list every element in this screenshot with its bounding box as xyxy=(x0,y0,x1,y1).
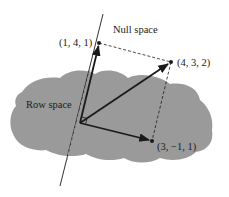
point-sum xyxy=(169,60,173,64)
point-row xyxy=(150,139,154,143)
label-point-row: (3, −1, 1) xyxy=(157,141,197,153)
guide-dashed-top xyxy=(99,43,171,62)
label-point-sum: (4, 3, 2) xyxy=(177,57,211,69)
label-row-space: Row space xyxy=(26,99,72,110)
label-point-null: (1, 4, 1) xyxy=(59,37,93,49)
diagram-canvas: Null space Row space (1, 4, 1) (4, 3, 2)… xyxy=(0,0,229,197)
point-null xyxy=(97,41,101,45)
label-null-space: Null space xyxy=(113,24,158,35)
